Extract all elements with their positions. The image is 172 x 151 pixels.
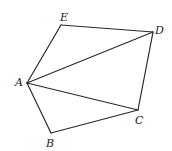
label-b: B	[45, 137, 54, 150]
segment-ab	[27, 83, 51, 133]
label-c: C	[135, 114, 144, 127]
label-d: D	[154, 24, 164, 37]
segment-bc	[51, 110, 138, 133]
segment-de	[61, 25, 153, 32]
segment-ea	[27, 25, 61, 83]
segment-ac	[27, 83, 138, 110]
segment-cd	[138, 32, 153, 110]
pentagon-diagram: A B C D E	[0, 0, 172, 151]
vertex-labels: A B C D E	[14, 11, 164, 150]
label-e: E	[59, 11, 68, 24]
label-a: A	[14, 76, 23, 89]
segment-ad	[27, 32, 153, 83]
